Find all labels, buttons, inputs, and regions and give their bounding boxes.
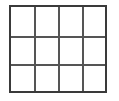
grid-cell bbox=[11, 7, 34, 36]
grid-cell bbox=[59, 65, 82, 91]
grid-table bbox=[9, 5, 107, 93]
grid-cell bbox=[35, 65, 58, 91]
grid-cell bbox=[59, 37, 82, 64]
grid-cell bbox=[59, 7, 82, 36]
grid-cell bbox=[35, 37, 58, 64]
grid-cell bbox=[35, 7, 58, 36]
grid-cell bbox=[11, 65, 34, 91]
grid-cell bbox=[11, 37, 34, 64]
grid-cell bbox=[83, 65, 105, 91]
grid-cell bbox=[83, 7, 105, 36]
grid-cell bbox=[83, 37, 105, 64]
